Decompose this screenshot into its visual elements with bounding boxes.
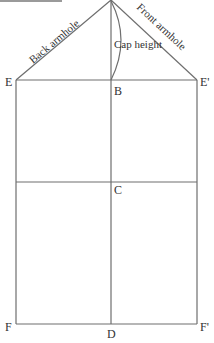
back-armhole-label: Back armhole: [27, 17, 82, 66]
point-b-label: B: [114, 84, 122, 98]
point-f-prime-label: F': [200, 320, 209, 334]
point-f-label: F: [5, 320, 12, 334]
point-c-label: C: [114, 183, 122, 197]
cap-height-label: Cap height: [114, 38, 162, 50]
point-e-prime-label: E': [200, 75, 210, 89]
point-e-label: E: [5, 75, 12, 89]
point-d-label: D: [107, 327, 116, 341]
cropped-text-remnant: [0, 0, 62, 2]
sleeve-pattern-diagram: Back armhole Front armhole Cap height E …: [0, 0, 214, 343]
